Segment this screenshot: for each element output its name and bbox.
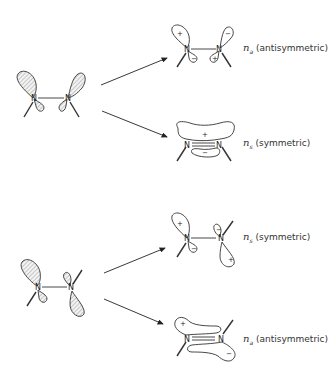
cis-reactant bbox=[17, 71, 85, 117]
svg-text:N: N bbox=[218, 335, 224, 344]
svg-text:N: N bbox=[218, 234, 224, 243]
label-text: (symmetric) bbox=[255, 232, 310, 242]
svg-text:N: N bbox=[184, 45, 190, 54]
svg-text:N: N bbox=[68, 283, 74, 292]
svg-text:−: − bbox=[202, 149, 208, 157]
svg-text:−: − bbox=[191, 55, 197, 63]
orbital-diagram: N N N N + − − + N N + − N N bbox=[0, 0, 336, 368]
label-trans-na: na (antisymmetric) bbox=[243, 333, 328, 346]
label-subscript: a bbox=[249, 339, 253, 346]
label-text: (symmetric) bbox=[255, 138, 310, 148]
label-text: (antisymmetric) bbox=[256, 334, 328, 344]
svg-text:+: + bbox=[202, 131, 208, 139]
svg-text:N: N bbox=[184, 234, 190, 243]
arrow-icon bbox=[104, 299, 163, 324]
svg-text:N: N bbox=[35, 283, 41, 292]
svg-text:N: N bbox=[184, 141, 190, 150]
trans-reactant bbox=[21, 260, 84, 317]
arrow-icon bbox=[104, 248, 165, 273]
arrow-icon bbox=[102, 111, 167, 137]
label-text: (antisymmetric) bbox=[256, 43, 328, 53]
svg-text:+: + bbox=[177, 30, 183, 38]
svg-text:−: − bbox=[225, 30, 231, 38]
label-subscript: a bbox=[249, 48, 253, 55]
label-cis-ns: ns (symmetric) bbox=[243, 137, 310, 150]
svg-text:N: N bbox=[216, 141, 222, 150]
svg-text:−: − bbox=[216, 226, 222, 234]
svg-text:N: N bbox=[184, 335, 190, 344]
svg-text:+: + bbox=[228, 256, 234, 264]
arrow-icon bbox=[101, 58, 167, 85]
label-subscript: s bbox=[249, 143, 252, 150]
atom-n: N bbox=[65, 94, 71, 103]
svg-text:N: N bbox=[216, 45, 222, 54]
svg-text:+: + bbox=[180, 320, 186, 328]
label-cis-na: na (antisymmetric) bbox=[243, 42, 328, 55]
svg-text:−: − bbox=[226, 350, 232, 358]
svg-text:−: − bbox=[191, 245, 197, 253]
label-trans-ns: ns (symmetric) bbox=[243, 231, 310, 244]
atom-n: N bbox=[31, 94, 37, 103]
svg-text:+: + bbox=[177, 220, 183, 228]
label-subscript: s bbox=[249, 237, 252, 244]
svg-text:+: + bbox=[212, 55, 218, 63]
